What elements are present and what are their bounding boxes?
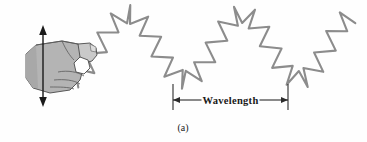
hand-gripping-icon [26, 41, 97, 93]
figure-canvas: Wavelength (a) [0, 0, 367, 142]
wavelength-arrow-head-right [281, 97, 288, 103]
panel-caption: (a) [177, 122, 188, 134]
physics-figure-transverse-wave: Wavelength (a) [0, 0, 367, 142]
motion-arrow-head-down [39, 97, 47, 107]
wavelength-label: Wavelength [202, 95, 258, 106]
wavelength-arrow-head-left [173, 97, 180, 103]
coiled-spring-icon [75, 5, 356, 89]
hand-wrist-shade [26, 45, 38, 88]
wavelength-measure: Wavelength [173, 84, 288, 110]
motion-arrow-head-up [39, 25, 47, 35]
hand-fingernail [90, 44, 96, 52]
